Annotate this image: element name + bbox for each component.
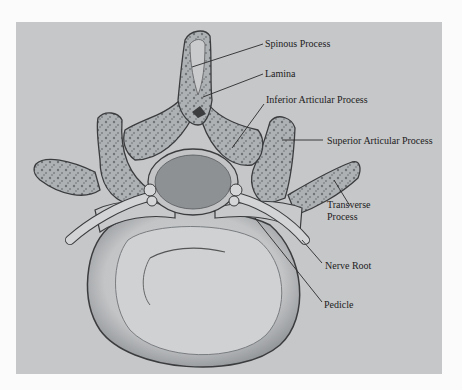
leader-nerve-root — [302, 240, 322, 263]
label-superior-articular-process: Superior Articular Process — [327, 135, 433, 147]
spinous-process — [178, 31, 212, 125]
label-nerve-root: Nerve Root — [325, 260, 371, 272]
transverse-process-left — [34, 159, 100, 195]
label-lamina: Lamina — [265, 68, 296, 80]
label-pedicle: Pedicle — [324, 299, 353, 311]
vertebra-illustration — [0, 0, 462, 390]
label-spinous-process: Spinous Process — [265, 38, 330, 50]
label-inferior-articular-process: Inferior Articular Process — [266, 94, 368, 106]
label-transverse-process: Transverse Process — [327, 199, 387, 223]
leader-lamina — [203, 74, 263, 97]
